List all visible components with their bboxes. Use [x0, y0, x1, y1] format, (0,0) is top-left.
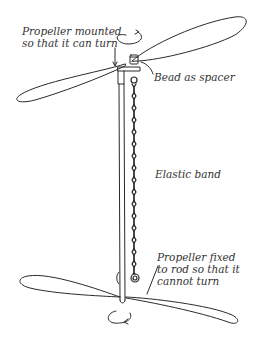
- label-bead: Bead as spacer: [154, 71, 235, 83]
- label-line: Propeller fixed: [157, 251, 240, 263]
- label-line: Bead as spacer: [154, 71, 235, 83]
- label-line: so that it can turn: [22, 37, 122, 49]
- label-line: cannot turn: [157, 275, 240, 287]
- label-line: Propeller mounted: [22, 25, 122, 37]
- elastic-band-icon: [131, 77, 139, 282]
- top-propeller-right-blade: [132, 17, 246, 61]
- label-line: to rod so that it: [157, 263, 240, 275]
- helicopter-diagram: Propeller mounted so that it can turn Be…: [0, 0, 257, 337]
- label-bottom-propeller: Propeller fixed to rod so that it cannot…: [157, 251, 240, 287]
- label-top-propeller: Propeller mounted so that it can turn: [22, 25, 122, 49]
- bottom-propeller-right-blade: [126, 297, 238, 323]
- top-propeller-left-blade: [17, 64, 125, 102]
- bottom-propeller-left-blade: [20, 275, 120, 297]
- bottom-rotation-arrow-icon: [108, 311, 131, 323]
- label-elastic-band: Elastic band: [155, 168, 221, 180]
- bead-leader: [141, 62, 153, 74]
- label-line: Elastic band: [155, 168, 221, 180]
- rod: [119, 84, 125, 300]
